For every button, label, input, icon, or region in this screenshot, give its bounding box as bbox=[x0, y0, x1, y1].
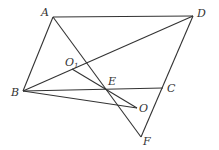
label-point-b: B bbox=[10, 86, 19, 99]
label-point-d: D bbox=[196, 7, 206, 20]
label-point-f: F bbox=[142, 135, 151, 148]
geometry-diagram: ADBCEOFO1 bbox=[0, 0, 219, 150]
point-labels: ADBCEOFO1 bbox=[10, 6, 206, 148]
segment-bo bbox=[23, 91, 137, 108]
label-point-o1: O1 bbox=[65, 56, 79, 70]
segment-bc bbox=[23, 88, 163, 91]
segment-af bbox=[53, 17, 141, 137]
label-point-c: C bbox=[167, 82, 176, 95]
label-point-a: A bbox=[40, 6, 49, 19]
segment-ad bbox=[53, 16, 193, 17]
label-point-o: O bbox=[139, 102, 148, 115]
label-point-e: E bbox=[107, 75, 116, 88]
segment-df bbox=[141, 16, 193, 137]
